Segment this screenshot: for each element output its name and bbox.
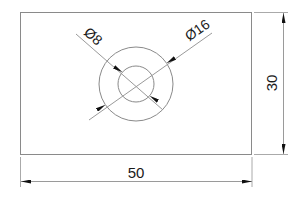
outer-diameter-arrow-1: [167, 56, 179, 63]
outer-circle: [99, 47, 173, 121]
outer-diameter-leader: [89, 33, 212, 120]
width-dimension-label: 50: [128, 164, 145, 181]
part-outline: [21, 13, 252, 155]
outer-diameter-label: Ø16: [182, 16, 213, 44]
technical-drawing: 50 30 Ø8 Ø16: [0, 0, 303, 197]
height-dimension-label: 30: [263, 75, 280, 92]
outer-diameter-arrow-2: [94, 105, 106, 112]
inner-diameter-label: Ø8: [81, 24, 106, 48]
inner-circle: [118, 66, 154, 102]
